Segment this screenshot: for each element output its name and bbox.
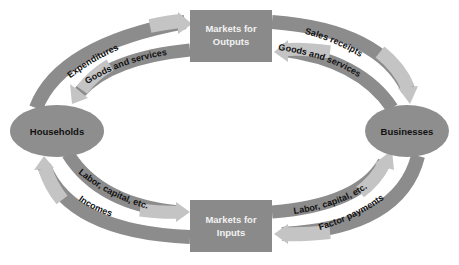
markets-outputs-label-line2: Outputs [213,36,249,47]
flow-expenditures-arrow [36,12,192,108]
node-households: Households [10,105,104,157]
node-markets-inputs: Markets for Inputs [190,200,272,252]
households-label: Households [30,126,84,137]
markets-inputs-label-line1: Markets for [205,214,257,225]
markets-inputs-label-line2: Inputs [217,227,246,238]
node-businesses: Businesses [365,105,449,157]
circular-flow-diagram: Markets for Outputs Markets for Inputs H… [0,0,459,265]
node-markets-outputs: Markets for Outputs [190,10,272,62]
businesses-label: Businesses [381,126,434,137]
markets-outputs-label-line1: Markets for [205,23,257,34]
